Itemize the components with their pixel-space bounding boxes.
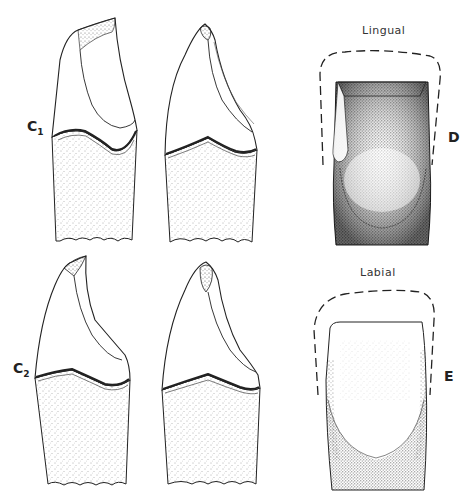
label-c2-sub: 2 [23,369,29,379]
labial-view-e [314,290,434,490]
label-c2: C2 [13,360,30,379]
c1-tooth-left [52,18,137,241]
label-c2-main: C [13,360,23,376]
label-c1-sub: 1 [37,127,43,137]
c1-tooth-right [165,24,257,242]
c2-tooth-left [35,256,130,485]
lingual-view-d [320,51,440,245]
label-c1-main: C [27,118,37,134]
illustration-canvas [0,0,470,496]
label-d: D [448,129,460,145]
c2-tooth-right [162,262,260,484]
dental-illustration-figure: C1 C2 D E Lingual Labial [0,0,470,496]
view-title-labial: Labial [360,266,396,279]
view-title-lingual: Lingual [362,24,405,37]
label-c1: C1 [27,118,44,137]
label-e: E [444,368,454,384]
